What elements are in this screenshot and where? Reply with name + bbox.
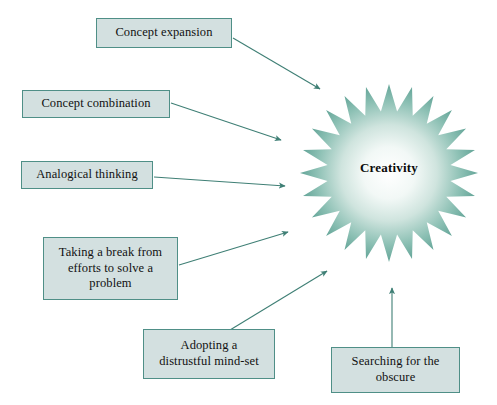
node-concept-combination[interactable]: Concept combination bbox=[22, 90, 170, 118]
creativity-diagram: Creativity Concept expansion Concept com… bbox=[0, 0, 497, 405]
arrow-concept-expansion bbox=[233, 38, 320, 89]
node-searching-obscure[interactable]: Searching for the obscure bbox=[331, 347, 460, 393]
node-analogical-thinking[interactable]: Analogical thinking bbox=[21, 161, 153, 189]
arrow-taking-a-break bbox=[179, 232, 288, 265]
node-label-taking-a-break: Taking a break from efforts to solve a p… bbox=[54, 245, 167, 292]
arrow-concept-combination bbox=[171, 103, 281, 140]
arrow-distrustful-mind-set bbox=[230, 271, 327, 330]
arrow-analogical-thinking bbox=[154, 177, 285, 186]
node-concept-expansion[interactable]: Concept expansion bbox=[96, 18, 232, 48]
node-label-distrustful-mind-set: Adopting a distrustful mind-set bbox=[154, 338, 264, 369]
node-label-searching-obscure: Searching for the obscure bbox=[347, 354, 445, 385]
node-distrustful-mind-set[interactable]: Adopting a distrustful mind-set bbox=[143, 329, 275, 379]
node-label-concept-combination: Concept combination bbox=[36, 96, 155, 112]
node-label-concept-expansion: Concept expansion bbox=[110, 25, 217, 41]
node-label-analogical-thinking: Analogical thinking bbox=[31, 167, 143, 183]
creativity-star-label: Creativity bbox=[336, 160, 442, 176]
node-taking-a-break[interactable]: Taking a break from efforts to solve a p… bbox=[43, 237, 178, 300]
